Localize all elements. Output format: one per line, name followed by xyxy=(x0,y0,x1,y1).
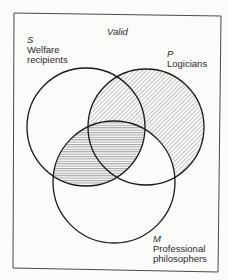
set-m-name-line2: philosophers xyxy=(153,253,207,264)
diagram-title: Valid xyxy=(107,26,128,37)
venn-diagram: Valid S Welfare recipients P Logicians M… xyxy=(0,0,228,280)
set-s-name-line2: recipients xyxy=(27,54,68,65)
set-p-name: Logicians xyxy=(167,58,207,69)
